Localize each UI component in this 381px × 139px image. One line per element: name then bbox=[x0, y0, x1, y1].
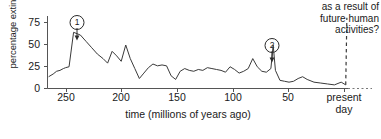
future-projection-dashed-line bbox=[346, 18, 347, 85]
axes bbox=[44, 16, 372, 92]
y-tick-marks bbox=[44, 23, 48, 89]
marker-1-arrow-head bbox=[75, 36, 80, 41]
marker-arrows bbox=[75, 28, 275, 63]
marker-2-arrow-head bbox=[270, 58, 275, 63]
chart-canvas bbox=[0, 0, 381, 139]
extinction-data-line bbox=[49, 32, 346, 85]
x-tick-marks bbox=[67, 89, 345, 93]
extinction-chart: percentage extinctions 75 50 25 0 250 20… bbox=[0, 0, 381, 139]
